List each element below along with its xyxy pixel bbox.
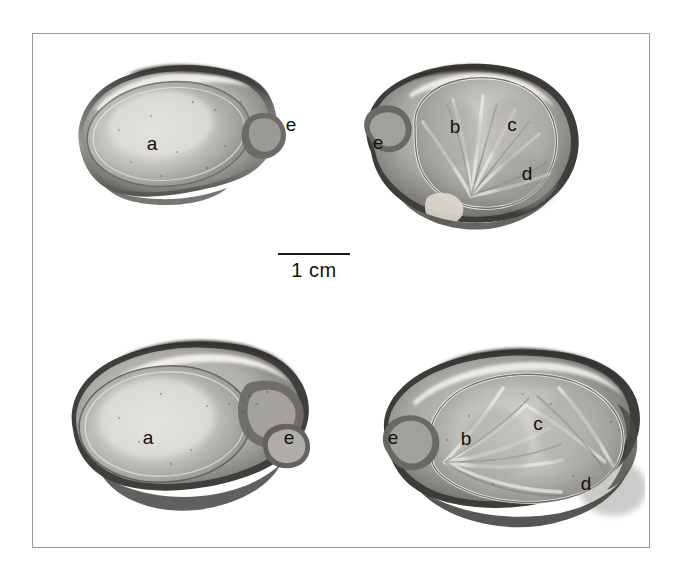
hinge-umbo-highlight [249, 118, 281, 152]
scale-bar: 1 cm [278, 253, 350, 282]
label-top-right-d: d [522, 164, 533, 183]
label-bottom-right-c: c [533, 414, 543, 433]
label-top-left-e: e [286, 115, 297, 134]
label-bottom-right-e: e [388, 428, 399, 447]
specimen-top-right [353, 56, 593, 232]
sector-b-shading [463, 408, 531, 480]
figure-root: 1 cm a e e b c d a e e b c d [0, 0, 679, 567]
plate-frame: 1 cm [32, 33, 650, 548]
label-top-right-e: e [373, 133, 384, 152]
label-top-left-a: a [147, 134, 158, 153]
label-bottom-left-a: a [143, 428, 154, 447]
scale-bar-label: 1 cm [278, 259, 350, 282]
label-top-right-c: c [507, 115, 517, 134]
specimen-bottom-right [373, 344, 645, 530]
sector-c-shading [533, 394, 605, 466]
specimen-top-right-image [353, 56, 593, 232]
specimen-bottom-right-image [373, 344, 645, 530]
scale-bar-line [278, 253, 350, 255]
specimen-bottom-left-image [61, 334, 321, 520]
label-bottom-left-e: e [284, 428, 295, 447]
specimen-top-left [65, 58, 300, 223]
label-bottom-right-d: d [581, 474, 592, 493]
label-top-right-b: b [450, 117, 461, 136]
specimen-bottom-left [61, 334, 321, 520]
label-bottom-right-b: b [461, 429, 472, 448]
specimen-top-left-image [65, 58, 300, 223]
